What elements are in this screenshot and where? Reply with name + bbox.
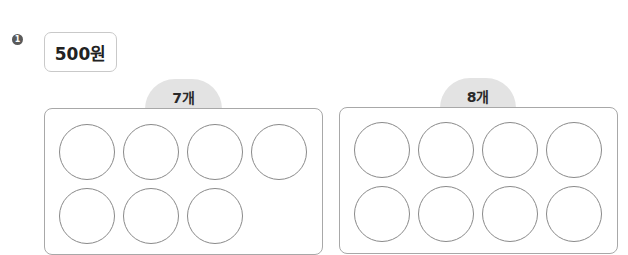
group-tab-7: 7개 (145, 79, 222, 109)
coin-slot[interactable] (251, 124, 307, 180)
coin-slot[interactable] (482, 186, 538, 242)
coin-panel-8 (339, 107, 618, 254)
coin-slot[interactable] (187, 188, 243, 244)
coin-slot[interactable] (354, 122, 410, 178)
coin-slot[interactable] (123, 124, 179, 180)
problem-number-badge: 1 (12, 34, 23, 45)
coin-slot[interactable] (354, 186, 410, 242)
coin-slot[interactable] (418, 122, 474, 178)
coin-slot[interactable] (123, 188, 179, 244)
coin-slot[interactable] (187, 124, 243, 180)
coin-slot[interactable] (482, 122, 538, 178)
coin-slot[interactable] (59, 124, 115, 180)
group-count-label: 7개 (172, 87, 195, 109)
price-label-box: 500원 (44, 32, 117, 72)
group-count-label: 8개 (467, 86, 490, 108)
coin-slot[interactable] (59, 188, 115, 244)
coin-panel-7 (44, 108, 323, 255)
price-label: 500원 (55, 40, 107, 65)
group-tab-8: 8개 (440, 78, 516, 108)
coin-slot[interactable] (546, 122, 602, 178)
coin-slot[interactable] (418, 186, 474, 242)
coin-slot[interactable] (546, 186, 602, 242)
